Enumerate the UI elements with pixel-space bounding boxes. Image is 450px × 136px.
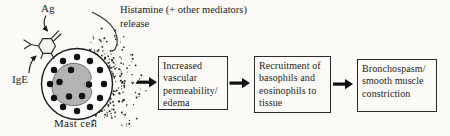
flow-arrow-3 xyxy=(333,79,353,89)
flow-box-bronchospasm: Bronchospasm/ smooth muscle constriction xyxy=(357,59,437,112)
histamine-release-label-line2: release xyxy=(120,17,247,31)
flow-box-recruitment: Recruitment of basophils and eosinophils… xyxy=(254,56,331,113)
antigen-ige-complex xyxy=(24,31,61,59)
antigen-label: Ag xyxy=(41,2,54,14)
allergy-mast-cell-diagram: Ag IgE Mast cell Histamine (+ other medi… xyxy=(0,0,450,136)
flow-box-vascular-permeability: Increased vascular permeability/ edema xyxy=(158,56,228,110)
antigen-arrow xyxy=(44,16,47,32)
ige-label: IgE xyxy=(12,73,28,85)
histamine-release-label-line1: Histamine (+ other mediators) xyxy=(120,3,247,17)
histamine-release-label: Histamine (+ other mediators) release xyxy=(120,3,247,30)
histamine-pointer-line xyxy=(92,12,117,51)
flow-arrow-2 xyxy=(230,78,251,88)
ige-arrow xyxy=(29,56,36,73)
mast-cell-label: Mast cell xyxy=(54,117,97,129)
